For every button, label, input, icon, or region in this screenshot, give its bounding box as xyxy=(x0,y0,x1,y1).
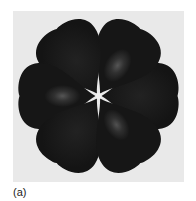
figure-label: (a) xyxy=(13,186,26,198)
nucleus-center xyxy=(96,93,102,99)
six-lobe-orbital-diagram xyxy=(0,0,196,201)
